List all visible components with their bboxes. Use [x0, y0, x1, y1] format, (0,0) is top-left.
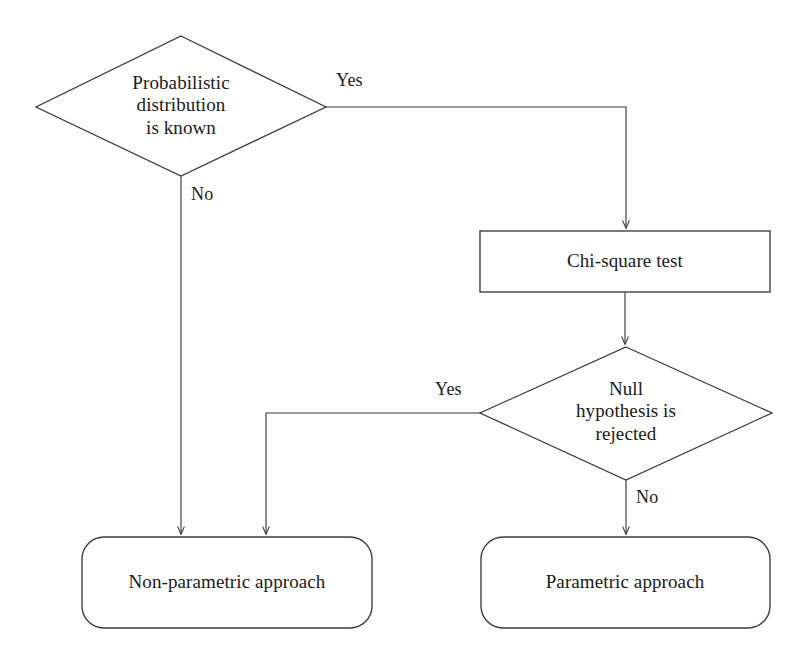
edge-distribution-yes	[326, 107, 626, 228]
node-process-chisquare[interactable]	[480, 231, 770, 292]
node-terminal-parametric[interactable]	[481, 537, 770, 628]
flowchart-svg	[0, 0, 804, 663]
node-decision-null[interactable]	[480, 347, 772, 480]
flowchart-canvas: Probabilistic distribution is known Chi-…	[0, 0, 804, 663]
node-terminal-nonparametric[interactable]	[82, 537, 372, 628]
node-decision-distribution[interactable]	[36, 36, 326, 176]
edge-null-yes	[266, 413, 480, 534]
